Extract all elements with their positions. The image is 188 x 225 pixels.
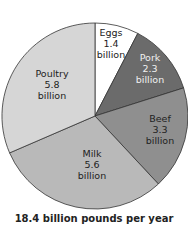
- label-poultry: Poultry 5.8 billion: [30, 68, 74, 101]
- label-milk: Milk 5.6 billion: [72, 148, 112, 181]
- label-pork: Pork 2.3 billion: [130, 52, 170, 85]
- chart-caption: 18.4 billion pounds per year: [0, 213, 188, 224]
- label-beef: Beef 3.3 billion: [140, 113, 180, 146]
- label-eggs: Eggs 1.4 billion: [96, 27, 126, 60]
